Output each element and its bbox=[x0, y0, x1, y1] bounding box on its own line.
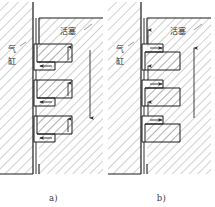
cylinder-body-a bbox=[0, 2, 33, 174]
caption-b: b) bbox=[108, 193, 215, 203]
label-cylinder-b-char1: 气 bbox=[116, 44, 124, 54]
figure-panel-b: 活塞 气 缸 b) bbox=[108, 0, 215, 207]
label-piston-b: 活塞 bbox=[170, 26, 186, 36]
label-cylinder-b-char2: 缸 bbox=[116, 56, 124, 66]
cylinder-body-b bbox=[108, 2, 141, 174]
label-piston-a: 活塞 bbox=[60, 26, 76, 36]
diagram-canvas: 活塞 气 缸 a) bbox=[0, 0, 215, 207]
label-cylinder-a-char2: 缸 bbox=[8, 56, 16, 66]
label-cylinder-a-char1: 气 bbox=[8, 44, 16, 54]
caption-a: a) bbox=[0, 193, 107, 203]
figure-panel-a: 活塞 气 缸 a) bbox=[0, 0, 107, 207]
